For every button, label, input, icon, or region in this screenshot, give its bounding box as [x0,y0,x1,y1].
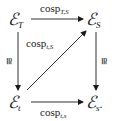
label-subscript: T,S [60,8,69,16]
label-base: cosp [40,106,60,118]
label-diagonal-arrow: cospt,S [26,38,53,51]
node-subscript: T [18,20,23,30]
node-base: ℰ [8,10,18,29]
label-subscript: t,s [60,112,66,120]
label-base: cosp [26,37,46,49]
label-subscript: t,S [46,43,53,51]
node-top-left: ℰT [8,11,23,30]
label-top-arrow: cospT,S [40,3,69,16]
label-base: cosp [40,2,60,14]
node-suffix: . [100,97,103,111]
node-subscript: S [96,20,101,30]
node-base: ℰ [86,93,96,112]
node-top-right: ℰS [86,11,101,30]
iso-label-right: ≅ [99,57,109,65]
iso-label-left: ≅ [4,57,14,65]
label-bottom-arrow: cospt,s [40,107,67,120]
node-bottom-left: ℰt [8,94,21,113]
node-base: ℰ [8,93,18,112]
node-subscript: t [18,103,21,113]
node-bottom-right: ℰs. [86,94,103,113]
node-base: ℰ [86,10,96,29]
